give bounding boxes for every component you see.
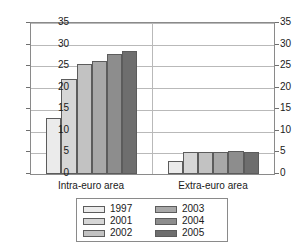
ytick-left-15: 15 [47, 103, 69, 113]
ytick-left-35: 35 [47, 17, 69, 27]
ytick-right-0: 0 [280, 168, 302, 178]
legend-item-2004[interactable]: 2004 [155, 215, 221, 227]
ytickmark-right-15 [275, 108, 279, 109]
ytick-right-35: 35 [280, 17, 302, 27]
bar-2003-extra [213, 152, 228, 174]
ytick-right-30: 30 [280, 39, 302, 49]
ytick-left-0: 0 [47, 168, 69, 178]
legend-label-1997: 1997 [110, 204, 132, 214]
bar-1997-extra [168, 161, 183, 174]
ytickmark-right-0 [275, 173, 279, 174]
ytickmark-left-30 [26, 44, 30, 45]
legend-item-2005[interactable]: 2005 [155, 227, 221, 239]
ytickmark-left-0 [26, 173, 30, 174]
legend-label-2002: 2002 [110, 228, 132, 238]
ytickmark-left-15 [26, 108, 30, 109]
ytick-left-20: 20 [47, 82, 69, 92]
ytick-left-30: 30 [47, 39, 69, 49]
legend-item-2001[interactable]: 2001 [83, 215, 149, 227]
bar-2004-extra [228, 151, 243, 174]
bar-2003-intra [92, 61, 107, 174]
ytickmark-left-5 [26, 151, 30, 152]
bar-2005-intra [122, 51, 137, 174]
ytickmark-right-20 [275, 87, 279, 88]
ytick-left-25: 25 [47, 60, 69, 70]
legend-swatch-2001 [83, 218, 105, 225]
legend-label-2004: 2004 [182, 216, 204, 226]
legend-swatch-2005 [155, 230, 177, 237]
ytickmark-right-35 [275, 22, 279, 23]
category-label-extra: Extra-euro area [152, 180, 274, 191]
ytickmark-right-25 [275, 65, 279, 66]
legend-item-2002[interactable]: 2002 [83, 227, 149, 239]
legend-swatch-1997 [83, 206, 105, 213]
ytick-right-15: 15 [280, 103, 302, 113]
legend-swatch-2003 [155, 206, 177, 213]
ytickmark-right-10 [275, 130, 279, 131]
legend-swatch-2002 [83, 230, 105, 237]
bar-2002-extra [198, 152, 213, 174]
bar-2002-intra [77, 64, 92, 174]
legend-item-1997[interactable]: 1997 [83, 203, 149, 215]
bar-2001-extra [183, 152, 198, 174]
legend-item-2003[interactable]: 2003 [155, 203, 221, 215]
legend-label-2001: 2001 [110, 216, 132, 226]
ytick-left-10: 10 [47, 125, 69, 135]
ytickmark-left-20 [26, 87, 30, 88]
ytickmark-left-25 [26, 65, 30, 66]
ytick-right-10: 10 [280, 125, 302, 135]
legend-label-2005: 2005 [182, 228, 204, 238]
ytickmark-right-30 [275, 44, 279, 45]
legend-swatch-2004 [155, 218, 177, 225]
ytick-right-5: 5 [280, 146, 302, 156]
legend: 199720032001200420022005 [76, 198, 228, 242]
ytickmark-left-35 [26, 22, 30, 23]
legend-label-2003: 2003 [182, 204, 204, 214]
ytickmark-right-5 [275, 151, 279, 152]
bar-chart: 0055101015152020252530303535 Intra-euro … [0, 0, 305, 248]
ytick-right-20: 20 [280, 82, 302, 92]
category-label-intra: Intra-euro area [30, 180, 152, 191]
ytick-right-25: 25 [280, 60, 302, 70]
bar-2004-intra [107, 54, 122, 174]
bar-2005-extra [244, 152, 259, 174]
ytick-left-5: 5 [47, 146, 69, 156]
ytickmark-left-10 [26, 130, 30, 131]
